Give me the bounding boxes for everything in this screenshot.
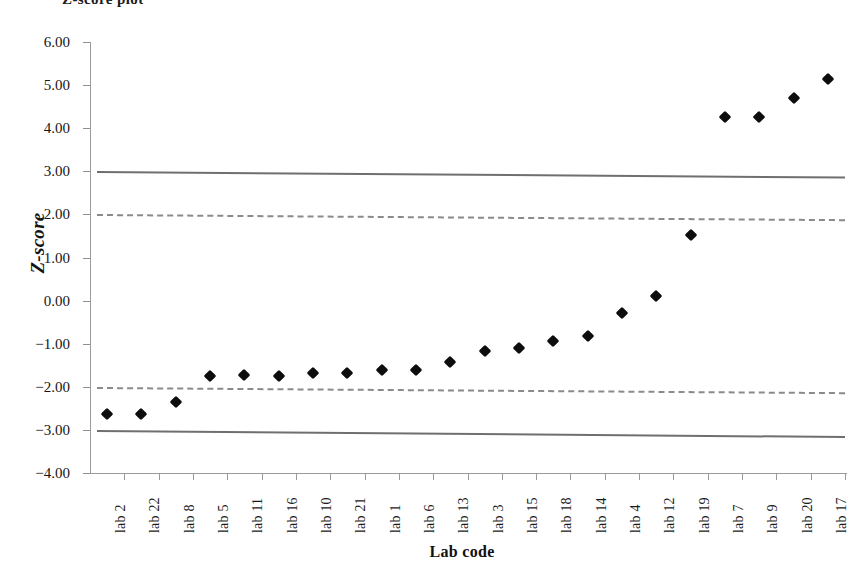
y-axis-tick-mark [83,42,90,43]
data-point-marker [547,334,560,347]
x-axis-tick-mark [468,473,469,480]
data-point-marker [753,111,766,124]
x-axis-tick-label: lab 2 [113,504,129,533]
data-point-marker [307,366,320,379]
x-axis-tick-mark [845,473,846,480]
data-point-marker [650,290,663,303]
y-axis-tick-mark [83,430,90,431]
y-axis-tick-mark [83,258,90,259]
x-axis-tick-mark [262,473,263,480]
x-axis-tick-label: lab 10 [319,497,335,533]
x-axis-tick-label: lab 17 [834,497,850,533]
x-axis-tick-label: lab 5 [216,504,232,533]
y-axis-tick-label: 4.00 [12,120,70,137]
x-axis-tick-mark [673,473,674,480]
x-axis-tick-mark [365,473,366,480]
data-point-marker [238,369,251,382]
data-point-marker [204,369,217,382]
x-axis-tick-mark [330,473,331,480]
upper-warning-limit [97,214,845,221]
data-point-marker [375,363,388,376]
x-axis-tick-label: lab 18 [559,497,575,533]
x-axis-tick-mark [742,473,743,480]
x-axis-tick-label: lab 13 [456,497,472,533]
y-axis-tick-mark [83,387,90,388]
lower-warning-limit [97,387,845,394]
y-axis-tick-label: 0.00 [12,292,70,309]
x-axis-tick-mark [708,473,709,480]
x-axis-tick-label: lab 3 [491,504,507,533]
x-axis-tick-mark [193,473,194,480]
x-axis-tick-mark [536,473,537,480]
data-point-marker [787,92,800,105]
y-axis-tick-label: 2.00 [12,206,70,223]
data-point-marker [513,342,526,355]
x-axis-tick-label: lab 1 [388,504,404,533]
x-axis-tick-label: lab 12 [662,497,678,533]
chart-title-fragment: Z-score plot [62,0,144,8]
x-axis-tick-mark [227,473,228,480]
x-axis-line [90,473,847,474]
x-axis-tick-label: lab 11 [250,498,266,533]
x-axis-tick-mark [776,473,777,480]
x-axis-tick-label: lab 8 [182,504,198,533]
x-axis-tick-mark [124,473,125,480]
data-point-marker [581,330,594,343]
data-point-marker [272,370,285,383]
x-axis-tick-mark [502,473,503,480]
y-axis-tick-mark [83,473,90,474]
y-axis-tick-label: 6.00 [12,34,70,51]
x-axis-tick-mark [399,473,400,480]
x-axis-tick-label: lab 15 [525,497,541,533]
y-axis-tick-mark [83,85,90,86]
y-axis-tick-mark [83,171,90,172]
y-axis-tick-label: 3.00 [12,163,70,180]
x-axis-tick-label: lab 14 [594,497,610,533]
data-point-marker [169,396,182,409]
x-axis-tick-mark [570,473,571,480]
y-axis-tick-label: −1.00 [12,335,70,352]
x-axis-tick-label: lab 20 [800,497,816,533]
data-point-marker [341,367,354,380]
data-point-marker [616,306,629,319]
y-axis-tick-label: 5.00 [12,77,70,94]
data-point-marker [821,72,834,85]
x-axis-tick-mark [605,473,606,480]
x-axis-tick-label: lab 16 [285,497,301,533]
data-point-marker [444,356,457,369]
y-axis-tick-mark [83,128,90,129]
x-axis-tick-label: lab 9 [765,504,781,533]
data-point-marker [684,229,697,242]
data-point-marker [478,344,491,357]
x-axis-tick-label: lab 4 [628,504,644,533]
x-axis-tick-mark [811,473,812,480]
y-axis-tick-mark [83,214,90,215]
data-point-marker [135,407,148,420]
x-axis-tick-label: lab 6 [422,504,438,533]
y-axis-tick-label: 1.00 [12,249,70,266]
x-axis-tick-mark [159,473,160,480]
y-axis-title: Z-score [27,183,49,303]
lower-action-limit [97,430,845,438]
data-point-marker [101,407,114,420]
y-axis-line [90,42,91,473]
x-axis-tick-label: lab 7 [731,504,747,533]
x-axis-tick-label: lab 21 [353,497,369,533]
z-score-chart: Z-score plot Z-score 6.005.004.003.002.0… [0,0,864,570]
y-axis-tick-mark [83,301,90,302]
y-axis-tick-mark [83,344,90,345]
data-point-marker [719,111,732,124]
x-axis-tick-label: lab 22 [147,497,163,533]
upper-action-limit [97,171,845,179]
x-axis-tick-mark [296,473,297,480]
y-axis-tick-label: −3.00 [12,421,70,438]
x-axis-tick-mark [433,473,434,480]
x-axis-tick-label: lab 19 [697,497,713,533]
y-axis-tick-label: −4.00 [12,465,70,482]
y-axis-tick-label: −2.00 [12,378,70,395]
x-axis-title: Lab code [430,543,495,561]
data-point-marker [410,363,423,376]
x-axis-tick-mark [639,473,640,480]
